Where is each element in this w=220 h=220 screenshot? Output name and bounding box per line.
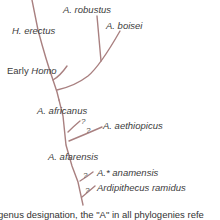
uncertainty-mark: ? bbox=[86, 126, 90, 135]
label-early-homo: Early Homo bbox=[7, 65, 57, 76]
label-a-aethiopicus: A. aethiopicus bbox=[103, 120, 163, 131]
uncertainty-mark: ? bbox=[81, 117, 85, 126]
label-a-afarensis: A. afarensis bbox=[48, 151, 98, 162]
label-a-africanus: A. africanus bbox=[37, 105, 87, 116]
label-a-boisei: A. boisei bbox=[106, 20, 142, 31]
label-ardipithecus-ramidus: Ardipithecus ramidus bbox=[97, 182, 186, 193]
uncertainty-mark: ? bbox=[83, 171, 87, 180]
label-h-erectus: H. erectus bbox=[12, 25, 55, 36]
uncertainty-mark: ? bbox=[85, 186, 89, 195]
label-a-robustus: A. robustus bbox=[63, 4, 111, 15]
figure-caption: genus designation, the "A" in all phylog… bbox=[0, 209, 204, 220]
label-a-anamensis: A.* anamensis bbox=[97, 167, 158, 178]
